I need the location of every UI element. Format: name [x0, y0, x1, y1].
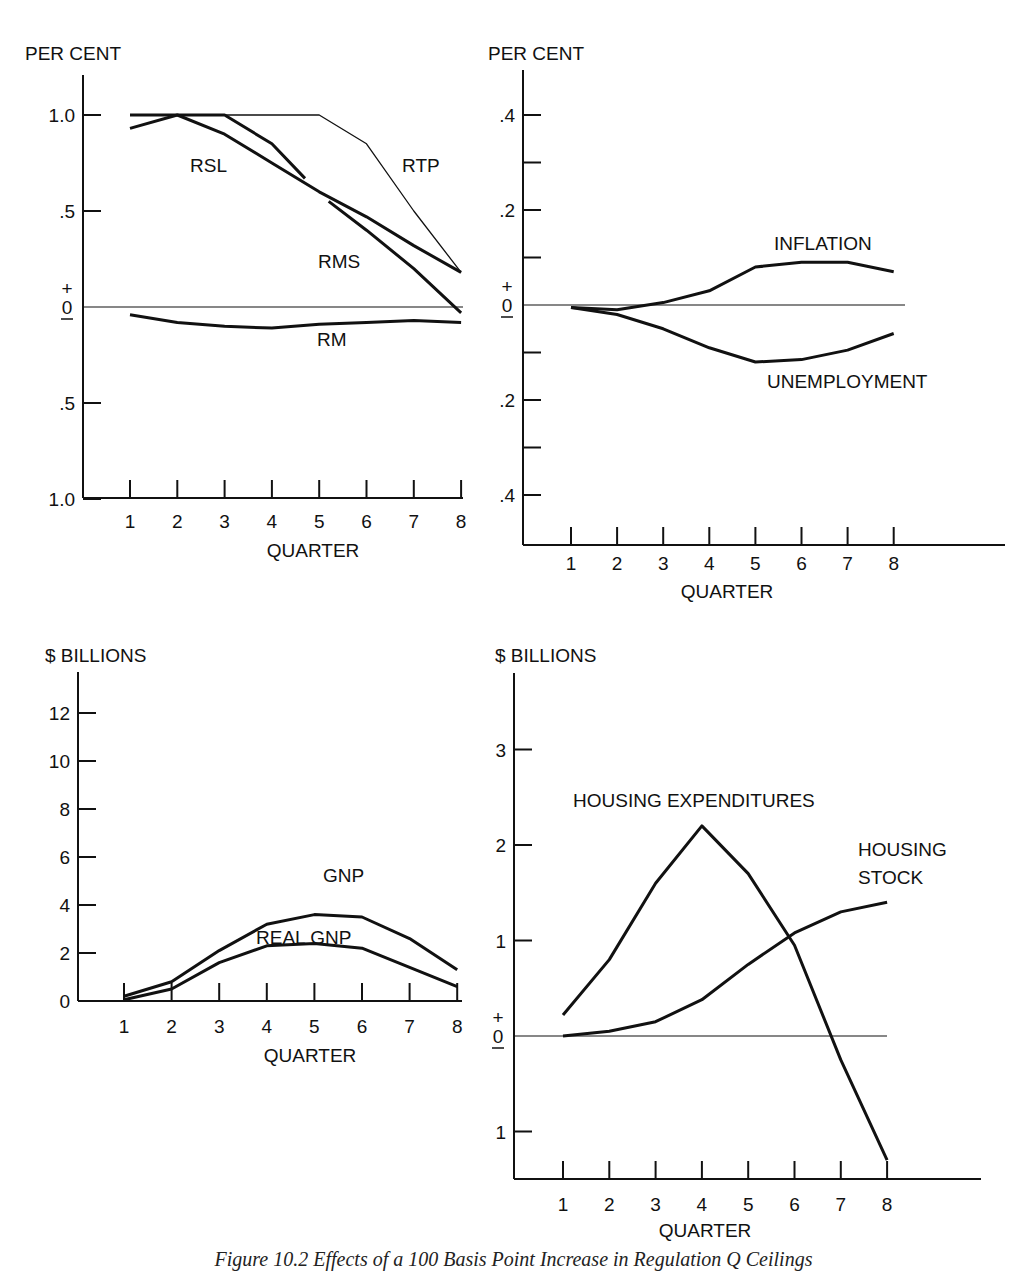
series-rms-upper [130, 115, 461, 272]
x-tick-label: 8 [888, 553, 899, 574]
y-tick-label: 2 [59, 943, 70, 964]
series-label: UNEMPLOYMENT [767, 371, 928, 392]
plus-sign: + [501, 276, 512, 297]
y-tick-label: 8 [59, 799, 70, 820]
chart-top-left: PER CENT1.0.5.51.0+012345678QUARTERRSLRT… [25, 43, 466, 561]
y-tick-label: .2 [499, 200, 515, 221]
y-tick-label: .5 [59, 201, 75, 222]
series-label: RSL [190, 155, 227, 176]
series-label: HOUSING EXPENDITURES [573, 790, 815, 811]
series-real-gnp [124, 943, 457, 999]
y-tick-label: .4 [499, 105, 515, 126]
y-axis-label: $ BILLIONS [45, 645, 146, 666]
x-tick-label: 4 [697, 1194, 708, 1215]
y-tick-label: 3 [495, 740, 506, 761]
series-rtp [130, 115, 461, 272]
series-housing-expenditures [563, 826, 887, 1160]
x-tick-label: 4 [267, 511, 278, 532]
x-tick-label: 5 [309, 1016, 320, 1037]
x-tick-label: 7 [404, 1016, 415, 1037]
y-tick-label: 0 [59, 991, 70, 1012]
y-tick-label: .4 [499, 485, 515, 506]
series-label: INFLATION [774, 233, 872, 254]
x-axis-label: QUARTER [681, 581, 774, 602]
y-tick-label: 10 [49, 751, 70, 772]
x-tick-label: 4 [704, 553, 715, 574]
x-tick-label: 5 [743, 1194, 754, 1215]
x-tick-label: 5 [314, 511, 325, 532]
y-axis-label: $ BILLIONS [495, 645, 596, 666]
x-tick-label: 6 [796, 553, 807, 574]
x-tick-label: 8 [456, 511, 467, 532]
y-tick-label: 1 [495, 931, 506, 952]
series-unemployment [571, 307, 894, 362]
x-tick-label: 5 [750, 553, 761, 574]
y-axis-label: PER CENT [488, 43, 584, 64]
series-label: RM [317, 329, 347, 350]
x-tick-label: 3 [650, 1194, 661, 1215]
x-tick-label: 1 [566, 553, 577, 574]
x-tick-label: 6 [789, 1194, 800, 1215]
x-tick-label: 7 [836, 1194, 847, 1215]
x-axis-label: QUARTER [264, 1045, 357, 1066]
x-tick-label: 7 [842, 553, 853, 574]
y-tick-label: 1.0 [49, 105, 75, 126]
x-tick-label: 4 [262, 1016, 273, 1037]
series-label: REAL GNP [256, 927, 351, 948]
x-axis-label: QUARTER [267, 540, 360, 561]
x-tick-label: 6 [357, 1016, 368, 1037]
x-tick-label: 2 [172, 511, 183, 532]
x-tick-label: 8 [882, 1194, 893, 1215]
series-housing-stock [563, 902, 887, 1036]
chart-bottom-left: $ BILLIONS12108642012345678QUARTERGNPREA… [45, 645, 462, 1066]
x-tick-label: 3 [658, 553, 669, 574]
plus-sign: + [492, 1007, 503, 1028]
x-tick-label: 3 [214, 1016, 225, 1037]
x-tick-label: 2 [166, 1016, 177, 1037]
x-tick-label: 3 [219, 511, 230, 532]
y-tick-label: 1 [495, 1122, 506, 1143]
series-label: RMS [318, 251, 360, 272]
x-tick-label: 6 [361, 511, 372, 532]
zero-label: 0 [502, 295, 513, 316]
chart-bottom-right: $ BILLIONS3211+012345678QUARTERHOUSING E… [492, 645, 981, 1241]
y-tick-label: 6 [59, 847, 70, 868]
zero-label: 0 [493, 1026, 504, 1047]
chart-top-right: PER CENT.4.2.2.4+012345678QUARTERINFLATI… [488, 43, 1005, 602]
plus-sign: + [61, 278, 72, 299]
x-tick-label: 1 [125, 511, 136, 532]
figure-caption: Figure 10.2 Effects of a 100 Basis Point… [0, 1248, 1027, 1271]
zero-label: 0 [62, 297, 73, 318]
y-tick-label: 1.0 [49, 489, 75, 510]
x-tick-label: 2 [604, 1194, 615, 1215]
y-tick-label: .2 [499, 390, 515, 411]
series-label: RTP [402, 155, 440, 176]
x-tick-label: 8 [452, 1016, 463, 1037]
series-label: HOUSING [858, 839, 947, 860]
series-rm [130, 315, 461, 328]
y-tick-label: 12 [49, 703, 70, 724]
x-tick-label: 1 [558, 1194, 569, 1215]
series-inflation [571, 262, 894, 310]
y-axis-label: PER CENT [25, 43, 121, 64]
x-axis-label: QUARTER [659, 1220, 752, 1241]
x-tick-label: 2 [612, 553, 623, 574]
y-tick-label: .5 [59, 393, 75, 414]
y-tick-label: 4 [59, 895, 70, 916]
series-label: GNP [323, 865, 364, 886]
x-tick-label: 1 [119, 1016, 130, 1037]
series-label: STOCK [858, 867, 923, 888]
y-tick-label: 2 [495, 835, 506, 856]
x-tick-label: 7 [409, 511, 420, 532]
